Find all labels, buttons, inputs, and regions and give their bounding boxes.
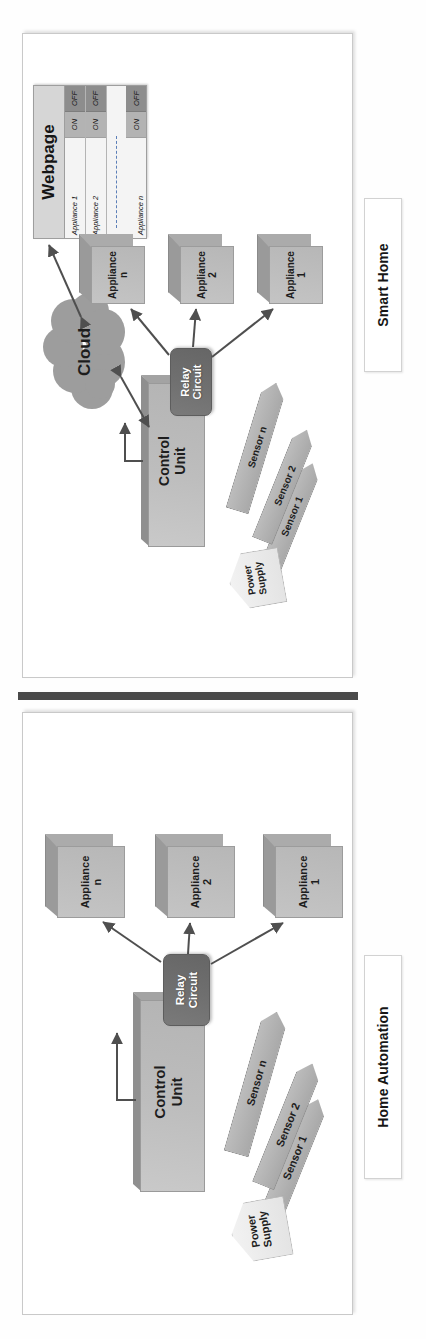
panel-divider xyxy=(18,692,358,700)
figure-canvas: Webpage Appliance 1 ON OFF Appliance 2 O… xyxy=(0,0,426,1339)
webpage-panel: Webpage Appliance 1 ON OFF Appliance 2 O… xyxy=(33,85,147,239)
appliance-label: Appliance 1 xyxy=(269,246,323,304)
sensor-label: Sensor n xyxy=(245,425,268,469)
on-toggle-cell[interactable]: ON xyxy=(65,112,85,138)
dashed-separator xyxy=(116,136,117,228)
relay-circuit-node: Relay Circuit xyxy=(170,348,212,416)
cloud-node: Cloud xyxy=(41,291,129,413)
appliance-node: Appliance n xyxy=(45,834,125,918)
power-supply-node: Power Supply xyxy=(225,547,288,612)
appliance-label: Appliance 2 xyxy=(180,246,234,304)
power-supply-label: Power Supply xyxy=(245,1210,275,1250)
smart-home-panel: Webpage Appliance 1 ON OFF Appliance 2 O… xyxy=(22,33,353,678)
relay-appliance-n-connector xyxy=(131,309,169,355)
off-toggle-cell[interactable]: OFF xyxy=(86,86,106,112)
appliance-node: Appliance 1 xyxy=(257,234,323,304)
home-automation-panel: Control Unit Relay Circuit Appliance n xyxy=(22,712,353,1315)
webpage-table: Appliance 1 ON OFF Appliance 2 ON OFF xyxy=(65,86,146,238)
relay-appliance-n-connector xyxy=(103,922,161,962)
appliance-name-cell: Appliance 2 xyxy=(86,138,106,238)
appliance-name-cell: Appliance 1 xyxy=(65,138,85,238)
relay-appliance-2-connector xyxy=(193,309,196,347)
appliance-name-cell: Appliance n xyxy=(126,138,146,238)
relay-appliance-2-connector xyxy=(188,923,190,954)
off-toggle-cell[interactable]: OFF xyxy=(65,86,85,112)
relay-appliance-1-connector xyxy=(211,923,283,964)
table-row: Appliance n ON OFF xyxy=(126,86,146,238)
relay-appliance-1-connector xyxy=(212,309,273,357)
on-toggle-cell[interactable]: ON xyxy=(126,112,146,138)
power-supply-node: Power Supply xyxy=(226,1195,294,1264)
smart-home-caption: Smart Home xyxy=(375,243,391,326)
table-row: Appliance 1 ON OFF xyxy=(65,86,86,238)
relay-circuit-node: Relay Circuit xyxy=(163,954,210,1026)
table-ellipsis-row xyxy=(107,86,127,238)
webpage-title: Webpage xyxy=(34,86,65,238)
sensor-label: Sensor n xyxy=(244,1059,269,1108)
relay-circuit-label: Relay Circuit xyxy=(174,972,200,1008)
home-automation-panel-wrapper: Control Unit Relay Circuit Appliance n xyxy=(22,712,353,1315)
on-toggle-cell[interactable]: ON xyxy=(86,112,106,138)
power-supply-label: Power Supply xyxy=(242,561,269,598)
home-automation-caption: Home Automation xyxy=(375,1006,391,1128)
table-row: Appliance 2 ON OFF xyxy=(86,86,107,238)
smart-home-panel-wrapper: Webpage Appliance 1 ON OFF Appliance 2 O… xyxy=(22,33,353,678)
appliance-label: Appliance 2 xyxy=(167,846,235,918)
home-automation-caption-box: Home Automation xyxy=(364,955,402,1179)
appliance-label: Appliance 1 xyxy=(275,846,343,918)
smart-home-caption-box: Smart Home xyxy=(364,198,402,372)
appliance-node: Appliance 2 xyxy=(168,234,234,304)
cloud-label: Cloud xyxy=(41,291,129,413)
appliance-node: Appliance 1 xyxy=(263,834,343,918)
relay-circuit-label: Relay Circuit xyxy=(179,365,204,400)
appliance-label: Appliance n xyxy=(57,846,125,918)
off-toggle-cell[interactable]: OFF xyxy=(126,86,146,112)
appliance-node: Appliance 2 xyxy=(155,834,235,918)
